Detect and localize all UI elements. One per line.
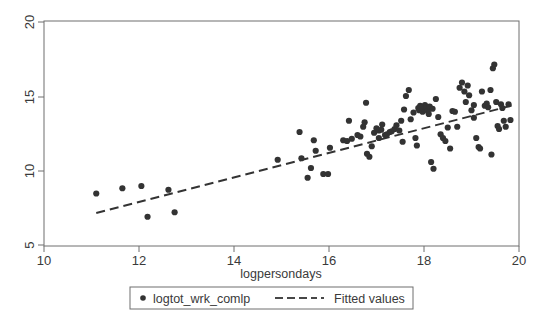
scatter-point [406, 87, 412, 93]
y-tick-label-15: 15 [22, 90, 37, 104]
scatter-point [499, 105, 505, 111]
scatter-point [491, 61, 497, 67]
scatter-point [418, 104, 424, 110]
y-tick-label-20: 20 [22, 15, 37, 29]
scatter-point [429, 106, 435, 112]
scatter-point [454, 124, 460, 130]
legend-marker-scatter-icon [140, 295, 146, 301]
scatter-point [398, 118, 404, 124]
scatter-point [473, 135, 479, 141]
scatter-plot-figure: 20 15 10 5 10 12 14 16 18 20 logpersonda… [0, 0, 540, 323]
scatter-point [488, 151, 494, 157]
scatter-point [401, 106, 407, 112]
scatter-point [311, 137, 317, 143]
scatter-point [466, 92, 472, 98]
scatter-point [410, 109, 416, 115]
scatter-point [346, 118, 352, 124]
scatter-point [305, 175, 311, 181]
scatter-point [396, 127, 402, 133]
scatter-point [505, 101, 511, 107]
scatter-point [362, 119, 368, 125]
scatter-point [433, 96, 439, 102]
scatter-point [485, 104, 491, 110]
scatter-point [393, 122, 399, 128]
legend-label-scatter: logtot_wrk_comlp [153, 292, 250, 306]
x-tick-label-12: 12 [132, 253, 146, 268]
y-tick-label-10: 10 [22, 164, 37, 178]
scatter-point [428, 159, 434, 165]
scatter-point [357, 133, 363, 139]
scatter-point [463, 99, 469, 105]
scatter-point [327, 145, 333, 151]
scatter-point [435, 114, 441, 120]
scatter-point [403, 93, 409, 99]
scatter-point [308, 165, 314, 171]
scatter-point [400, 139, 406, 145]
scatter-point [369, 143, 375, 149]
plot-frame [44, 21, 519, 246]
scatter-point [477, 145, 483, 151]
x-tick-label-10: 10 [37, 253, 51, 268]
legend: logtot_wrk_comlp Fitted values [130, 287, 413, 309]
scatter-point [363, 100, 369, 106]
scatter-point [442, 138, 448, 144]
scatter-point [144, 214, 150, 220]
scatter-point [138, 183, 144, 189]
scatter-point [325, 171, 331, 177]
scatter-point [366, 154, 372, 160]
scatter-point [447, 145, 453, 151]
scatter-point [471, 115, 477, 121]
x-tick-label-16: 16 [322, 253, 336, 268]
scatter-point [471, 102, 477, 108]
scatter-point [349, 136, 355, 142]
scatter-point [313, 148, 319, 154]
scatter-point [487, 87, 493, 93]
y-tick-label-5: 5 [22, 241, 37, 248]
scatter-point [445, 124, 451, 130]
x-tick-label-18: 18 [417, 253, 431, 268]
scatter-point [465, 82, 471, 88]
scatter-point [426, 111, 432, 117]
scatter-point [93, 190, 99, 196]
scatter-point [452, 109, 458, 115]
scatter-point [412, 135, 418, 141]
scatter-point [378, 127, 384, 133]
scatter-point [507, 117, 513, 123]
scatter-point [296, 129, 302, 135]
scatter-point [408, 116, 414, 122]
scatter-point [496, 126, 502, 132]
scatter-point [165, 187, 171, 193]
scatter-point [119, 185, 125, 191]
legend-label-fitted: Fitted values [334, 292, 405, 306]
scatter-point [379, 121, 385, 127]
chart-page: 20 15 10 5 10 12 14 16 18 20 logpersonda… [0, 0, 540, 323]
scatter-point [479, 88, 485, 94]
x-tick-label-14: 14 [227, 253, 241, 268]
scatter-point [298, 155, 304, 161]
scatter-point [275, 157, 281, 163]
scatter-point [414, 142, 420, 148]
scatter-point [430, 166, 436, 172]
scatter-point [376, 135, 382, 141]
x-axis-title: logpersondays [240, 267, 321, 281]
scatter-point [172, 209, 178, 215]
scatter-point [459, 79, 465, 85]
scatter-point [501, 118, 507, 124]
scatter-point [503, 124, 509, 130]
x-tick-label-20: 20 [512, 253, 526, 268]
